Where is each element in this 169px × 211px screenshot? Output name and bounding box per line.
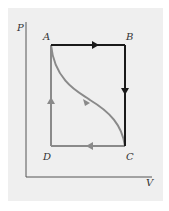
p-axis-label: P — [16, 22, 24, 33]
arrow-down-icon — [121, 88, 129, 95]
path-a-c-curve — [51, 45, 125, 146]
arrow-right-icon — [92, 41, 99, 49]
point-d-label: D — [42, 151, 51, 162]
v-axis-label: V — [146, 177, 155, 188]
arrow-left-icon — [86, 142, 93, 150]
point-c-label: C — [126, 151, 134, 162]
point-b-label: B — [125, 31, 133, 42]
point-a-label: A — [42, 31, 50, 42]
pv-diagram: P V A B C D — [0, 0, 169, 211]
arrow-up-icon — [47, 97, 55, 104]
